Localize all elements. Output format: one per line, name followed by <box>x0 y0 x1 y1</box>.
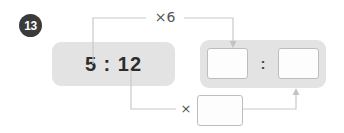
bottom-connector-right-segment <box>243 95 296 109</box>
bottom-operator-label: × <box>178 101 194 116</box>
ratio-exercise-worksheet: 13 5 : 12 : ×6 × <box>0 0 344 133</box>
top-operator-label: ×6 <box>148 9 182 25</box>
multiplier-input[interactable] <box>197 95 243 126</box>
given-ratio-text: 5 : 12 <box>52 42 175 86</box>
answer-ratio-colon: : <box>252 48 274 79</box>
top-connector-right-segment <box>184 18 233 42</box>
arrow-up-icon <box>293 88 300 95</box>
answer-consequent-input[interactable] <box>278 48 319 79</box>
question-number-badge: 13 <box>19 14 42 37</box>
answer-antecedent-input[interactable] <box>207 48 248 79</box>
